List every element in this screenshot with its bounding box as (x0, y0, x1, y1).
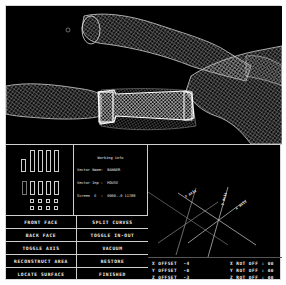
glyph-column-icon[interactable] (46, 150, 51, 172)
axes-orientation-view[interactable]: z axis y axis x axis (148, 145, 282, 257)
glyph-column-icon[interactable] (38, 181, 43, 195)
glyph-square-icon[interactable] (30, 206, 34, 210)
command-buttons: FRONT FACE SPLIT CURVES BACK FACE TOGGLE… (6, 215, 148, 281)
glyph-square-icon[interactable] (54, 206, 58, 210)
z-offset-value: Z OFFSET -3 (152, 275, 190, 280)
front-face-button[interactable]: FRONT FACE (6, 215, 77, 228)
offset-readout: X OFFSET -4 Y OFFSET -0 Z OFFSET -3 X RO… (148, 257, 282, 281)
y-rot-offset-value: Y ROT OFF : 00 (230, 268, 274, 273)
axes-lines (148, 145, 282, 257)
glyph-column-icon[interactable] (46, 181, 51, 195)
glyph-column-icon[interactable] (38, 150, 43, 172)
reconstruct-area-button[interactable]: RECONSTRUCT AREA (6, 254, 77, 267)
restore-button[interactable]: RESTORE (77, 254, 148, 267)
info-row: Vector Name: BANNER (77, 168, 144, 172)
glyph-square-icon[interactable] (38, 199, 42, 203)
info-row: Screen E : 0000..0 11788 (77, 194, 144, 198)
split-curves-button[interactable]: SPLIT CURVES (77, 215, 148, 228)
glyph-column-icon[interactable] (30, 150, 35, 172)
locate-surface-button[interactable]: LOCATE SURFACE (6, 267, 77, 280)
vacuum-button[interactable]: VACUUM (77, 241, 148, 254)
working-info-panel: Working info Vector Name: BANNER Vector … (74, 145, 148, 215)
glyph-column-icon[interactable] (22, 181, 27, 195)
glyph-palette (6, 145, 74, 215)
app-frame: Working info Vector Name: BANNER Vector … (5, 5, 281, 280)
x-offset-value: X OFFSET -4 (152, 261, 190, 266)
x-rot-offset-value: X ROT OFF : 00 (230, 261, 274, 266)
glyph-column-icon[interactable] (54, 150, 59, 172)
toggle-in-out-button[interactable]: TOGGLE IN-OUT (77, 228, 148, 241)
glyph-column-icon[interactable] (54, 181, 59, 195)
back-face-button[interactable]: BACK FACE (6, 228, 77, 241)
glyph-square-icon[interactable] (46, 206, 50, 210)
wireframe-viewport[interactable] (6, 6, 282, 144)
y-offset-value: Y OFFSET -0 (152, 268, 190, 273)
hand-bones-wireframe (6, 6, 282, 144)
z-rot-offset-value: Z ROT OFF : 00 (230, 275, 274, 280)
glyph-square-icon[interactable] (38, 206, 42, 210)
info-title: Working info (77, 156, 144, 160)
finished-button[interactable]: FINISHED (77, 267, 148, 280)
glyph-square-icon[interactable] (30, 199, 34, 203)
glyph-column-icon[interactable] (30, 181, 35, 195)
glyph-column-icon[interactable] (21, 159, 26, 172)
toggle-axis-button[interactable]: TOGGLE AXIS (6, 241, 77, 254)
info-row: Vector Inp : MOUSE (77, 181, 144, 185)
glyph-square-icon[interactable] (54, 199, 58, 203)
glyph-square-icon[interactable] (46, 199, 50, 203)
